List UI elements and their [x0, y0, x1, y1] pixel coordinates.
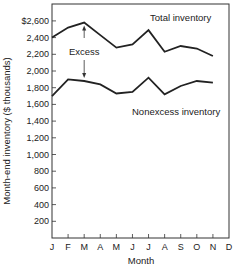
x-tick-label: D	[226, 242, 233, 252]
x-tick-label: A	[162, 242, 168, 252]
y-tick-label: 1,400	[26, 116, 49, 126]
x-tick-label: M	[113, 242, 121, 252]
y-tick-label: 1,800	[26, 83, 49, 93]
x-axis-title: Month	[128, 255, 154, 266]
x-tick-label: S	[178, 242, 184, 252]
y-axis-title: Month-end inventory ($ thousands)	[1, 57, 12, 204]
inventory-chart: 2004006008001,0001,2001,4001,6001,8002,0…	[0, 0, 236, 268]
x-axis-ticks: JFMAMJJASOND	[50, 234, 233, 252]
x-tick-label: J	[130, 242, 135, 252]
x-tick-label: J	[50, 242, 55, 252]
y-tick-label: 2,000	[26, 66, 49, 76]
x-tick-label: N	[210, 242, 217, 252]
y-tick-label: 400	[34, 200, 49, 210]
y-tick-label: 1,600	[26, 99, 49, 109]
data-lines	[52, 23, 213, 97]
plot-frame	[52, 4, 229, 238]
x-tick-label: A	[97, 242, 103, 252]
series-line	[52, 78, 213, 96]
y-tick-label: $2,600	[21, 16, 49, 26]
x-tick-label: O	[193, 242, 200, 252]
nonexcess-inventory-label: Nonexcess inventory	[132, 106, 220, 117]
y-tick-label: 2,200	[26, 49, 49, 59]
y-tick-label: 1,200	[26, 133, 49, 143]
y-tick-label: 2,400	[26, 33, 49, 43]
y-axis-ticks: 2004006008001,0001,2001,4001,6001,8002,0…	[21, 16, 56, 226]
y-tick-label: 1,000	[26, 150, 49, 160]
y-tick-label: 800	[34, 166, 49, 176]
x-tick-label: M	[80, 242, 88, 252]
x-tick-label: F	[65, 242, 71, 252]
y-tick-label: 200	[34, 216, 49, 226]
excess-label: Excess	[69, 46, 100, 57]
plot-border	[52, 4, 229, 238]
x-tick-label: J	[146, 242, 151, 252]
total-inventory-label: Total inventory	[150, 12, 212, 23]
y-tick-label: 600	[34, 183, 49, 193]
